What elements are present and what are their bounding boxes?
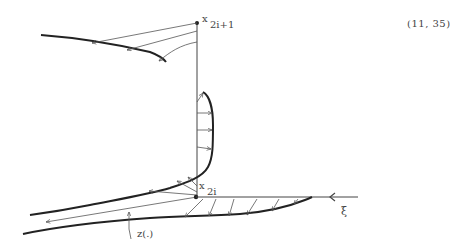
label-x2i-sub: 2i — [207, 186, 217, 197]
arrow-profile-4 — [197, 147, 211, 149]
arrow-upper-3 — [159, 42, 197, 61]
equation-number: (11, 35) — [407, 18, 451, 29]
arrow-down-2 — [209, 199, 216, 216]
lower-boundary-curve — [23, 197, 312, 234]
arrow-upper-2 — [127, 31, 197, 50]
arrow-down-1 — [185, 199, 203, 217]
velocity-profile-curve — [30, 92, 213, 215]
label-xi: ξ — [341, 205, 347, 218]
arrow-lower-left-3 — [149, 191, 197, 195]
label-x2i+1: x — [202, 13, 208, 24]
label-z: z(.) — [137, 228, 153, 239]
arrow-upper-1 — [92, 23, 197, 43]
label-x2i: x — [199, 180, 205, 191]
upper-boundary-curve — [41, 35, 166, 62]
z-pointer-arrow — [129, 212, 131, 239]
label-x2i+1-sub: 2i+1 — [210, 19, 234, 30]
flow-diagram: x 2i+1 x 2i ξ z(.) — [0, 0, 475, 252]
arrow-profile-1 — [197, 93, 203, 102]
